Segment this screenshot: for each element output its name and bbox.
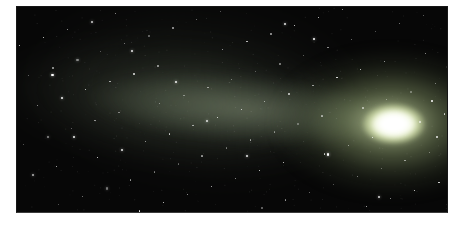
star [157, 65, 159, 67]
star [362, 107, 364, 109]
star [124, 43, 125, 44]
star [94, 120, 96, 122]
star [324, 153, 326, 155]
star [378, 196, 380, 198]
star [342, 9, 343, 10]
star [91, 21, 93, 23]
star [274, 131, 275, 132]
star [196, 19, 197, 20]
star [172, 27, 174, 29]
star [121, 149, 123, 151]
star [436, 136, 437, 137]
star [61, 97, 63, 99]
star [348, 145, 349, 146]
star [231, 79, 232, 80]
page-background [0, 0, 464, 228]
star [207, 87, 209, 89]
star [97, 157, 98, 158]
star [28, 75, 29, 76]
star [201, 155, 202, 156]
star [47, 136, 49, 138]
star [130, 179, 132, 181]
star [76, 59, 78, 61]
star [259, 170, 260, 171]
star [211, 186, 213, 188]
star [37, 105, 38, 106]
star [435, 83, 436, 84]
star [309, 192, 310, 193]
star [279, 63, 281, 65]
star [264, 101, 265, 102]
star [444, 113, 446, 115]
star-field [17, 7, 447, 212]
star [284, 23, 286, 25]
star [246, 41, 248, 43]
star [255, 71, 256, 72]
star [294, 25, 295, 26]
star [145, 141, 146, 142]
star [431, 100, 433, 102]
star [327, 47, 329, 49]
star [106, 187, 108, 189]
star [429, 152, 431, 154]
star [217, 117, 218, 118]
star [159, 103, 160, 104]
comet-photograph [16, 6, 448, 213]
star [131, 50, 133, 52]
star [246, 155, 248, 157]
star [425, 53, 426, 54]
star [148, 35, 150, 37]
star [438, 182, 440, 184]
comet-tail-outer [16, 6, 431, 213]
star [297, 123, 299, 125]
star [109, 81, 110, 82]
star [312, 85, 313, 86]
star [235, 178, 236, 179]
star [303, 55, 304, 56]
star [419, 121, 421, 123]
star [270, 33, 272, 35]
star [139, 210, 141, 212]
star [115, 13, 116, 14]
star [222, 49, 223, 50]
star [133, 73, 135, 75]
star [67, 29, 68, 30]
star [390, 198, 391, 199]
star [384, 61, 385, 62]
star [51, 74, 54, 77]
star [336, 77, 337, 78]
star [187, 194, 188, 195]
star [206, 120, 208, 122]
star [250, 139, 252, 141]
comet-coma-glow [230, 25, 448, 214]
star [175, 81, 177, 83]
star [410, 91, 412, 93]
star [285, 199, 287, 201]
star [226, 147, 227, 148]
star [333, 184, 334, 185]
star [85, 89, 86, 90]
comet-tail-haze [16, 6, 427, 213]
star [404, 160, 406, 162]
star [163, 202, 164, 203]
star [313, 38, 315, 40]
star [192, 125, 193, 126]
star [375, 31, 376, 32]
star [399, 23, 400, 24]
star [366, 206, 368, 208]
star [220, 11, 221, 12]
star [56, 166, 58, 168]
comet-tail-inner [16, 40, 413, 169]
star [395, 129, 396, 130]
star [372, 137, 373, 138]
star [351, 39, 352, 40]
star [52, 67, 54, 69]
film-grain-overlay [17, 7, 18, 8]
star [423, 15, 424, 16]
star [169, 133, 171, 135]
star [183, 95, 184, 96]
star [71, 128, 72, 129]
star [241, 109, 242, 110]
star [414, 190, 415, 191]
star [283, 162, 284, 163]
